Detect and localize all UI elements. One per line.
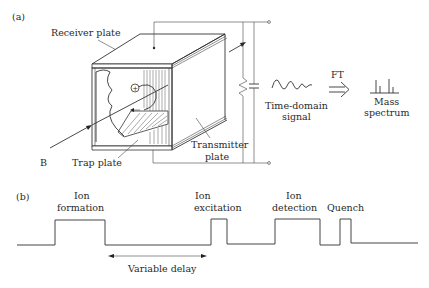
pulse-sequence-trace bbox=[17, 219, 418, 245]
pulse-label-detection-1: Ion bbox=[286, 190, 302, 201]
fticr-diagram: (a) Receiver plate bbox=[0, 0, 429, 288]
resistor-icon bbox=[239, 78, 247, 96]
pulse-label-quench: Quench bbox=[327, 202, 364, 213]
sine-wave-icon bbox=[272, 80, 312, 89]
ion-symbol: + bbox=[132, 85, 138, 93]
pulse-label-detection-2: detection bbox=[272, 202, 317, 213]
spectrum-peaks-icon bbox=[370, 79, 399, 93]
variable-delay-label: Variable delay bbox=[127, 263, 197, 274]
mass-spectrum-label-2: spectrum bbox=[364, 107, 409, 118]
transmitter-plate-label-1: Transmitter bbox=[191, 139, 249, 150]
variable-delay-arrow bbox=[108, 254, 207, 258]
mass-spectrum-label-1: Mass bbox=[374, 96, 399, 107]
pulse-label-excitation-2: excitation bbox=[194, 202, 242, 213]
receiver-plate-label: Receiver plate bbox=[51, 27, 121, 38]
panel-a: (a) Receiver plate bbox=[12, 11, 409, 168]
pulse-label-formation-1: Ion bbox=[74, 190, 90, 201]
trap-plate-label: Trap plate bbox=[72, 157, 122, 168]
double-arrow-icon bbox=[329, 82, 349, 97]
panel-a-label: (a) bbox=[12, 11, 25, 22]
capacitor-icon bbox=[249, 84, 259, 88]
ft-label: FT bbox=[331, 69, 345, 80]
time-domain-label-1: Time-domain bbox=[265, 100, 328, 111]
transmitter-plate-label-2: plate bbox=[205, 151, 230, 162]
panel-b: (b) Ion formation Ion excitation Ion det… bbox=[16, 190, 418, 274]
b-field-label: B bbox=[40, 157, 47, 168]
panel-b-label: (b) bbox=[16, 191, 30, 202]
icr-cell-icon: + bbox=[92, 34, 227, 150]
time-domain-label-2: signal bbox=[282, 111, 311, 122]
pulse-label-excitation-1: Ion bbox=[195, 190, 211, 201]
pulse-label-formation-2: formation bbox=[57, 202, 104, 213]
transmitter-plate-leader bbox=[196, 118, 210, 138]
